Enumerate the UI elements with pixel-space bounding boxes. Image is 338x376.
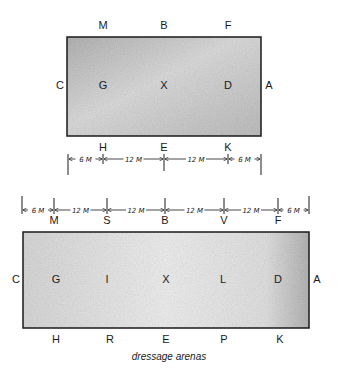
marker-letter-bottom: E xyxy=(160,141,167,153)
marker-letter-right: A xyxy=(265,79,273,91)
marker-letter-top: B xyxy=(160,19,167,31)
marker-letter-top: B xyxy=(161,214,168,226)
centerline-letter: L xyxy=(220,273,226,285)
dimension-label: 12 M xyxy=(187,156,204,164)
marker-letter-top: S xyxy=(103,214,110,226)
marker-letter-top: F xyxy=(225,19,232,31)
marker-letter-bottom: H xyxy=(52,333,60,345)
marker-letter-bottom: E xyxy=(162,333,169,345)
small-arena: MBFHEKGXDCA6 M12 M12 M6 M xyxy=(56,19,273,175)
dimension-label: 12 M xyxy=(125,156,142,164)
dimension-label: 12 M xyxy=(242,207,259,215)
dimension-label: 12 M xyxy=(127,207,144,215)
marker-letter-left: C xyxy=(56,79,64,91)
dressage-diagram: MBFHEKGXDCA6 M12 M12 M6 M MSBVFHREPKGIXL… xyxy=(0,0,338,376)
centerline-letter: G xyxy=(99,79,108,91)
marker-letter-bottom: P xyxy=(220,333,227,345)
marker-letter-top: V xyxy=(220,214,228,226)
marker-letter-bottom: H xyxy=(99,141,107,153)
marker-letter-top: F xyxy=(275,214,282,226)
centerline-letter: X xyxy=(162,273,170,285)
centerline-letter: X xyxy=(160,79,168,91)
dimension-label: 6 M xyxy=(287,207,300,215)
centerline-letter: G xyxy=(52,273,61,285)
centerline-letter: I xyxy=(105,273,108,285)
dimension-label: 6 M xyxy=(79,156,92,164)
dimension-line: 6 M12 M12 M12 M12 M6 M xyxy=(22,196,309,215)
marker-letter-top: M xyxy=(49,214,58,226)
dimension-label: 12 M xyxy=(72,207,89,215)
marker-letter-left: C xyxy=(12,273,20,285)
large-arena: MSBVFHREPKGIXLDCA6 M12 M12 M12 M12 M6 M xyxy=(12,196,321,345)
dimension-line: 6 M12 M12 M6 M xyxy=(68,154,261,175)
dimension-label: 6 M xyxy=(238,156,251,164)
dimension-label: 6 M xyxy=(32,207,45,215)
marker-letter-top: M xyxy=(98,19,107,31)
marker-letter-bottom: K xyxy=(276,333,284,345)
centerline-letter: D xyxy=(274,273,282,285)
marker-letter-bottom: K xyxy=(224,141,232,153)
centerline-letter: D xyxy=(224,79,232,91)
dimension-label: 12 M xyxy=(186,207,203,215)
marker-letter-bottom: R xyxy=(106,333,114,345)
marker-letter-right: A xyxy=(313,273,321,285)
caption: dressage arenas xyxy=(132,351,207,362)
